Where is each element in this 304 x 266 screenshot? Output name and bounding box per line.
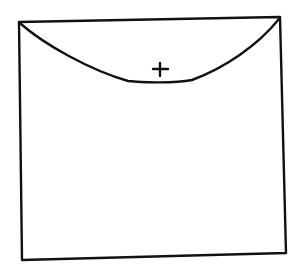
square-outline	[19, 17, 286, 260]
diagram-canvas	[0, 0, 304, 266]
plus-sign-icon	[153, 63, 168, 76]
bottom-arc	[21, 19, 279, 82]
